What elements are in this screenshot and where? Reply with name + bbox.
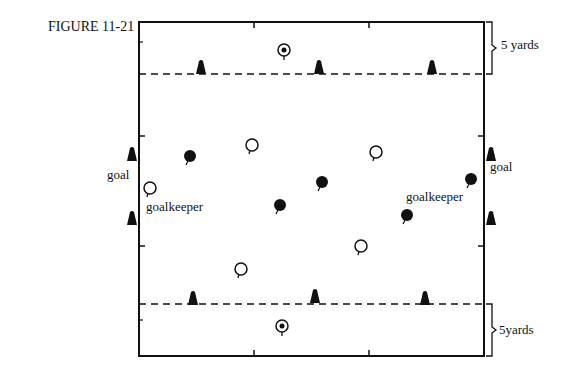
dark-team-player-icon — [316, 176, 328, 188]
top-zone-brace — [486, 22, 496, 74]
cone-icon — [127, 211, 137, 225]
server-center-dot — [280, 324, 285, 329]
left-goal-label: goal — [107, 168, 129, 181]
player-direction-tick — [186, 161, 188, 165]
cone-icon — [196, 60, 206, 74]
right-goalkeeper-label: goalkeeper — [406, 190, 463, 203]
left-goalkeeper-label: goalkeeper — [146, 200, 203, 213]
player-direction-tick — [467, 184, 469, 188]
server-center-dot — [282, 48, 287, 53]
light-team-player-icon — [355, 240, 367, 252]
light-team-player-icon — [246, 139, 258, 151]
light-team-player-icon — [235, 263, 247, 275]
dark-team-player-icon — [184, 150, 196, 162]
cone-icon — [310, 289, 320, 303]
light-team-player-icon — [370, 146, 382, 158]
cone-icon — [486, 211, 496, 225]
cone-icon — [188, 291, 198, 305]
cone-icon — [127, 147, 137, 161]
cone-icon — [420, 291, 430, 305]
drill-field-diagram — [0, 0, 580, 379]
figure-title: FIGURE 11-21 — [48, 20, 134, 34]
bottom-zone-distance-label: 5yards — [499, 323, 534, 336]
player-direction-tick — [276, 210, 278, 214]
top-zone-distance-label: 5 yards — [501, 38, 539, 51]
cone-icon — [314, 60, 324, 74]
right-goal-label: goal — [490, 160, 512, 173]
cone-icon — [427, 60, 437, 74]
dark-team-player-icon — [274, 199, 286, 211]
light-team-player-icon — [144, 182, 156, 194]
player-direction-tick — [403, 220, 405, 224]
player-direction-tick — [318, 187, 320, 191]
dark-team-player-icon — [401, 209, 413, 221]
dark-team-player-icon — [465, 173, 477, 185]
bottom-zone-brace — [486, 304, 496, 356]
